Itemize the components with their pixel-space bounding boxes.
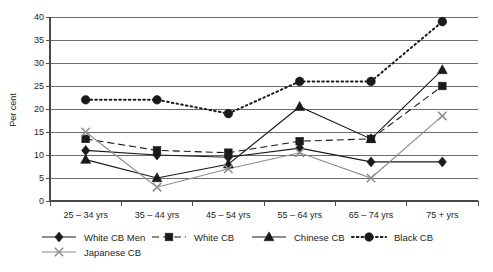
legend-item[interactable]: White CB Men xyxy=(42,232,145,243)
y-tick-label: 0 xyxy=(39,196,44,206)
y-tick-label: 35 xyxy=(34,35,44,45)
legend-label: Japanese CB xyxy=(84,247,141,258)
legend-item[interactable]: White CB xyxy=(152,232,234,243)
legend-item[interactable]: Black CB xyxy=(352,232,433,243)
data-point-square xyxy=(165,233,173,241)
data-point-square xyxy=(439,82,447,90)
legend-label: White CB xyxy=(194,232,234,243)
legend: White CB MenWhite CBChinese CBBlack CBJa… xyxy=(42,232,433,258)
data-point-diamond xyxy=(55,232,63,242)
data-point-circle xyxy=(365,233,374,242)
x-tick-label: 25 – 34 yrs xyxy=(63,210,108,220)
series-lines-group xyxy=(86,22,443,188)
y-tick-label: 25 xyxy=(34,81,44,91)
y-tick-label: 40 xyxy=(34,12,44,22)
series-line xyxy=(86,22,443,114)
x-axis-tickmarks xyxy=(50,201,478,206)
legend-label: Black CB xyxy=(394,232,433,243)
data-point-circle xyxy=(367,77,376,86)
y-tick-label: 10 xyxy=(34,150,44,160)
data-point-circle xyxy=(81,96,90,105)
data-point-triangle xyxy=(81,154,91,163)
x-tick-label: 75 + yrs xyxy=(426,210,459,220)
data-point-square xyxy=(225,149,233,157)
legend-label: Chinese CB xyxy=(294,232,345,243)
y-axis-tick-labels: 0510152025303540 xyxy=(34,12,50,206)
data-point-triangle xyxy=(295,102,305,111)
chart-container: 0510152025303540 25 – 34 yrs35 – 44 yrs4… xyxy=(0,0,493,272)
legend-item[interactable]: Chinese CB xyxy=(252,232,345,243)
data-point-cross xyxy=(153,183,161,191)
data-point-diamond xyxy=(438,157,446,167)
data-point-square xyxy=(82,135,90,143)
x-tick-label: 45 – 54 yrs xyxy=(206,210,251,220)
data-point-circle xyxy=(153,96,162,105)
y-tick-label: 15 xyxy=(34,127,44,137)
data-point-circle xyxy=(224,109,233,118)
data-point-cross xyxy=(438,112,446,120)
data-point-diamond xyxy=(367,157,375,167)
data-point-triangle xyxy=(223,159,233,168)
data-point-square xyxy=(296,137,304,145)
data-point-circle xyxy=(295,77,304,86)
series-line xyxy=(86,86,443,153)
x-tick-label: 35 – 44 yrs xyxy=(135,210,180,220)
x-axis-tick-labels: 25 – 34 yrs35 – 44 yrs45 – 54 yrs55 – 64… xyxy=(63,210,459,220)
legend-item[interactable]: Japanese CB xyxy=(42,247,141,258)
y-tick-label: 30 xyxy=(34,58,44,68)
data-point-triangle xyxy=(264,232,274,241)
series-markers xyxy=(81,17,446,118)
data-point-circle xyxy=(438,17,447,26)
data-point-triangle xyxy=(437,65,447,74)
y-axis-title: Per cent xyxy=(8,93,18,127)
line-chart: 0510152025303540 25 – 34 yrs35 – 44 yrs4… xyxy=(0,0,493,272)
x-tick-label: 65 – 74 yrs xyxy=(349,210,394,220)
series-line xyxy=(86,116,443,187)
data-point-square xyxy=(153,147,161,155)
x-tick-label: 55 – 64 yrs xyxy=(277,210,322,220)
legend-label: White CB Men xyxy=(84,232,145,243)
y-tick-label: 5 xyxy=(39,173,44,183)
series-markers-group xyxy=(81,17,448,191)
y-tick-label: 20 xyxy=(34,104,44,114)
